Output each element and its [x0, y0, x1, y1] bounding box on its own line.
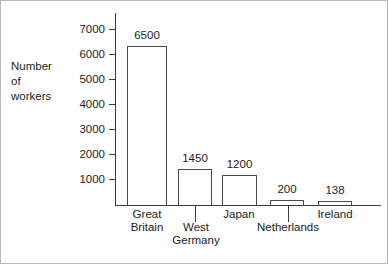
bar — [270, 200, 304, 205]
y-axis-tick — [109, 79, 116, 80]
y-axis-tick — [109, 104, 116, 105]
x-axis-category-divider — [288, 206, 289, 222]
y-axis-tick-label: 7000 — [79, 24, 105, 36]
y-axis-tick — [109, 129, 116, 130]
bar — [127, 46, 167, 205]
bar — [222, 175, 257, 205]
bar-value-label: 138 — [305, 185, 365, 197]
y-axis-tick — [109, 179, 116, 180]
y-axis-line — [115, 13, 116, 206]
y-axis-tick-label: 6000 — [79, 49, 105, 61]
y-axis-tick-label: 2000 — [79, 149, 105, 161]
x-axis-category-label-line: Germany — [162, 234, 230, 247]
bar — [318, 201, 352, 205]
x-axis-category-label-line: West — [162, 221, 230, 234]
bar-chart-figure: Number of workers 7000600050004000300020… — [0, 0, 388, 264]
bar-value-label: 1200 — [210, 159, 270, 171]
y-axis-tick-label: 5000 — [79, 74, 105, 86]
x-axis-category-label: Netherlands — [246, 221, 330, 234]
x-axis-category-label: Japan — [205, 208, 273, 221]
y-axis-tick — [109, 154, 116, 155]
x-axis-line — [115, 205, 381, 206]
x-axis-category-label-line: Ireland — [301, 208, 369, 221]
y-axis-tick — [109, 29, 116, 30]
y-axis-tick-label: 4000 — [79, 99, 105, 111]
x-axis-category-label-line: Japan — [205, 208, 273, 221]
y-axis-tick — [109, 54, 116, 55]
x-axis-category-label-line: Netherlands — [246, 221, 330, 234]
plot-area: 7000600050004000300020001000 65001450120… — [1, 1, 388, 264]
bar — [178, 169, 212, 205]
x-axis-category-label: WestGermany — [162, 221, 230, 247]
y-axis-tick-label: 3000 — [79, 124, 105, 136]
x-axis-category-label-line: Great — [113, 208, 181, 221]
y-axis-tick-label: 1000 — [79, 174, 105, 186]
bar-value-label: 6500 — [117, 30, 177, 42]
x-axis-category-label: Ireland — [301, 208, 369, 221]
x-axis-category-divider — [195, 206, 196, 222]
